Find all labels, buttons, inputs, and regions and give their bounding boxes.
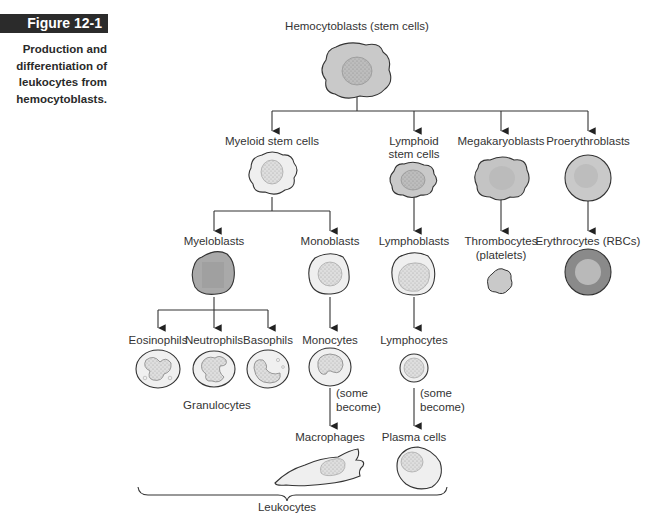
- cell-proerythroblast: [565, 155, 611, 201]
- label-lymphocytes: Lymphocytes: [380, 334, 448, 346]
- cell-thrombocyte: [488, 269, 513, 294]
- label-thrombocytes-line2: (platelets): [476, 249, 527, 261]
- cell-neutrophil: [193, 351, 235, 387]
- label-neutrophils: Neutrophils: [185, 334, 243, 346]
- cell-lymphoid-stem: [390, 162, 437, 197]
- cell-myeloid-stem: [249, 152, 297, 194]
- cell-hemocytoblast: [322, 43, 391, 98]
- cell-lymphocyte: [400, 354, 428, 382]
- label-some-become-2b: become): [420, 401, 465, 413]
- label-megakaryoblasts: Megakaryoblasts: [458, 135, 545, 147]
- label-some-become-1a: (some: [336, 387, 368, 399]
- label-hemocytoblasts: Hemocytoblasts (stem cells): [285, 20, 429, 32]
- cell-myeloblast: [192, 252, 234, 295]
- leukocyte-diagram: Hemocytoblasts (stem cells) Myeloid stem…: [0, 0, 663, 522]
- cell-basophil: [247, 350, 289, 388]
- label-granulocytes: Granulocytes: [183, 399, 251, 411]
- cell-eosinophil: [136, 350, 180, 388]
- cell-erythrocyte: [565, 249, 611, 295]
- label-plasma-cells: Plasma cells: [382, 431, 447, 443]
- label-lymphoblasts: Lymphoblasts: [379, 235, 450, 247]
- cell-monoblast: [309, 254, 349, 294]
- cell-lymphoblast: [392, 253, 435, 295]
- label-macrophages: Macrophages: [295, 431, 365, 443]
- label-some-become-1b: become): [336, 401, 381, 413]
- label-erythrocytes: Erythrocytes (RBCs): [536, 235, 641, 247]
- label-myeloid-stem-cells: Myeloid stem cells: [225, 135, 319, 147]
- label-lymphoid-line1: Lymphoid: [389, 135, 438, 147]
- label-myeloblasts: Myeloblasts: [184, 235, 245, 247]
- cell-plasma: [397, 447, 441, 489]
- cell-macrophage: [275, 449, 364, 486]
- label-some-become-2a: (some: [420, 387, 452, 399]
- label-leukocytes: Leukocytes: [258, 501, 316, 513]
- cell-monocyte: [309, 348, 351, 386]
- label-thrombocytes-line1: Thrombocytes: [465, 235, 538, 247]
- label-monocytes: Monocytes: [302, 334, 358, 346]
- label-proerythroblasts: Proerythroblasts: [546, 135, 630, 147]
- label-lymphoid-line2: stem cells: [388, 148, 439, 160]
- leukocytes-brace: [138, 487, 447, 501]
- label-basophils: Basophils: [243, 334, 293, 346]
- cell-megakaryoblast: [475, 157, 529, 200]
- label-eosinophils: Eosinophils: [129, 334, 188, 346]
- label-monoblasts: Monoblasts: [301, 235, 360, 247]
